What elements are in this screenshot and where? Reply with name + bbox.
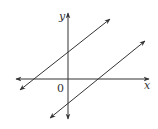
y-axis-label: y	[58, 10, 66, 23]
x-axis-label: x	[144, 79, 151, 92]
coordinate-plane: y x 0	[0, 0, 158, 129]
origin-label: 0	[57, 82, 64, 95]
